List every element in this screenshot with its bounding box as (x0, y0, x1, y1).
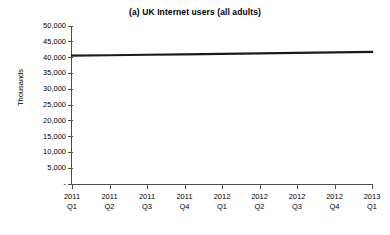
y-tick-label: 20,000 (43, 116, 66, 126)
y-tick: 20,000 (0, 116, 76, 126)
chart-figure: (a) UK Internet users (all adults) Thous… (0, 0, 390, 235)
x-tick-mark (335, 184, 336, 189)
y-tick-label: 10,000 (43, 147, 66, 157)
x-tick-mark (147, 184, 148, 189)
y-tick-label: 30,000 (43, 84, 66, 94)
x-tick-label-year: 2013 (350, 192, 390, 202)
y-tick: 45,000 (0, 37, 76, 47)
y-tick: - (0, 179, 76, 189)
x-tick-label: 2013Q1 (350, 192, 390, 212)
y-tick: 10,000 (0, 147, 76, 157)
y-tick-label: 5,000 (47, 163, 66, 173)
y-tick-label: - (64, 179, 67, 189)
x-tick-label-quarter: Q1 (350, 202, 390, 212)
y-tick: 50,000 (0, 21, 76, 31)
x-tick-mark (72, 184, 73, 189)
series-line-uk-internet-users (72, 52, 372, 56)
y-tick-label: 35,000 (43, 68, 66, 78)
y-tick-label: 40,000 (43, 53, 66, 63)
y-tick: 5,000 (0, 163, 76, 173)
chart-title: (a) UK Internet users (all adults) (0, 7, 390, 17)
x-tick-mark (110, 184, 111, 189)
plot-area (72, 26, 372, 184)
y-tick: 35,000 (0, 68, 76, 78)
y-tick: 30,000 (0, 84, 76, 94)
x-tick-mark (372, 184, 373, 189)
y-tick-label: 45,000 (43, 37, 66, 47)
y-tick: 15,000 (0, 132, 76, 142)
x-tick-mark (185, 184, 186, 189)
y-tick-label: 25,000 (43, 100, 66, 110)
x-tick-mark (297, 184, 298, 189)
y-tick: 25,000 (0, 100, 76, 110)
series-line-chart (72, 26, 372, 184)
y-tick-label: 50,000 (43, 21, 66, 31)
x-tick-mark (260, 184, 261, 189)
y-tick: 40,000 (0, 53, 76, 63)
x-tick-mark (222, 184, 223, 189)
y-tick-label: 15,000 (43, 132, 66, 142)
